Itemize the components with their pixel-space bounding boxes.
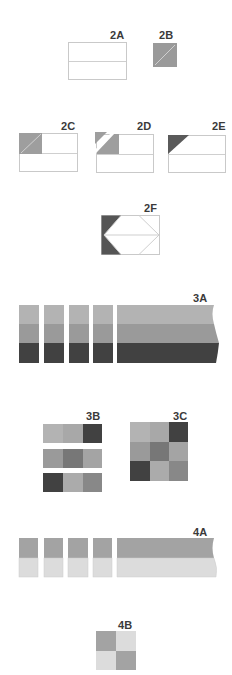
figure-label: 2A [110, 30, 124, 41]
nine-patch-block [130, 422, 190, 482]
figure-label: 2E [212, 121, 226, 132]
figure-label: 4A [193, 527, 207, 538]
figure-label: 2D [137, 121, 151, 132]
strip-set-three-bands [19, 305, 219, 365]
cut-segment [19, 305, 39, 363]
figure-label: 3C [173, 411, 187, 422]
dark-corner-triangle [168, 135, 190, 155]
half-square-triangle [153, 43, 177, 67]
strip-set-two-bands [19, 538, 219, 580]
corner-square [19, 133, 42, 154]
trimmed-corner [93, 130, 121, 156]
seam-line [69, 61, 126, 62]
figure-label: 2C [61, 121, 75, 132]
figure-label: 2B [159, 30, 173, 41]
figure-label: 3B [86, 411, 100, 422]
rectangle-unit [68, 42, 127, 80]
rearranged-segments [43, 424, 103, 494]
figure-label: 2F [144, 203, 157, 214]
flying-geese-unit [101, 215, 161, 256]
figure-label: 4B [118, 620, 132, 631]
figure-label: 3A [193, 293, 207, 304]
four-patch-block [96, 631, 137, 671]
